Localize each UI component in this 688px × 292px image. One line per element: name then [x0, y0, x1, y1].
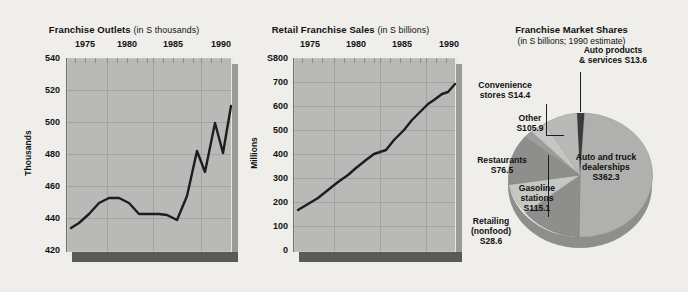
pie-label-auto-truck-l2: dealerships	[582, 162, 630, 172]
pie-label-other-l1: Other	[519, 113, 542, 123]
chart-retail-franchise-sales: Retail Franchise Sales (in S billions) 1…	[238, 0, 463, 292]
ytick-sales-800: S800	[250, 53, 288, 63]
pie-label-auto-products: Auto products & services S13.6	[553, 45, 673, 65]
pie-graphic	[455, 0, 688, 292]
chart-title-sales-sub: (in S billions)	[377, 25, 429, 35]
xaxis-labels-sales: 1975 1980 1985 1990	[238, 39, 463, 51]
plot-base-outlets	[72, 252, 238, 262]
chart-title-sales: Retail Franchise Sales (in S billions)	[238, 24, 463, 35]
leader-convenience-horizontal	[546, 135, 564, 136]
pie-label-convenience-l1: Convenience	[478, 80, 532, 90]
pie-label-convenience: Convenience stores S14.4	[457, 80, 553, 100]
xtick-outlets-2: 1985	[163, 39, 183, 49]
pie-label-restaurants-l1: Restaurants	[477, 155, 527, 165]
pie-label-restaurants: Restaurants S76.5	[465, 155, 539, 175]
pie-label-auto-truck: Auto and truck dealerships S362.3	[563, 152, 649, 183]
pie-label-retailing-l1: Retailing	[473, 216, 509, 226]
pie-label-auto-truck-value: S362.3	[592, 172, 619, 182]
chart-title-sales-main: Retail Franchise Sales	[272, 24, 375, 35]
ytick-outlets-480: 480	[32, 149, 60, 159]
chart-title-outlets: Franchise Outlets (in S thousands)	[0, 24, 248, 35]
ytick-outlets-500: 500	[32, 117, 60, 127]
pie-label-restaurants-value: S76.5	[491, 165, 513, 175]
chart-title-outlets-main: Franchise Outlets	[49, 24, 131, 35]
ytick-sales-100: 100	[250, 221, 288, 231]
pie-label-gasoline-l1: Gasoline	[519, 183, 555, 193]
ytick-outlets-520: 520	[32, 85, 60, 95]
ytick-sales-600: 600	[250, 101, 288, 111]
pie-label-auto-products-l2: & services S13.6	[579, 55, 647, 65]
plot-area-sales	[293, 58, 457, 252]
pie-label-retailing: Retailing (nonfood) S28.6	[451, 216, 531, 247]
ytick-outlets-420: 420	[32, 245, 60, 255]
ytick-outlets-460: 460	[32, 181, 60, 191]
pie-label-auto-products-l1: Auto products	[584, 45, 643, 55]
infographic-canvas: Franchise Outlets (in S thousands) 1975 …	[0, 0, 688, 292]
xtick-sales-2: 1985	[392, 39, 412, 49]
plot-base-sales	[299, 252, 462, 262]
chart-title-outlets-sub: (in S thousands)	[134, 25, 200, 35]
xtick-outlets-1: 1980	[117, 39, 137, 49]
ytick-sales-200: 200	[250, 197, 288, 207]
ytick-outlets-440: 440	[32, 213, 60, 223]
line-series-outlets	[67, 58, 233, 252]
pie-label-other: Other S105.9	[501, 113, 559, 133]
yaxis-title-outlets: Thousands	[23, 123, 33, 183]
plot-area-outlets	[66, 58, 233, 252]
xtick-sales-1: 1980	[346, 39, 366, 49]
xtick-sales-0: 1975	[300, 39, 320, 49]
ytick-sales-0: 0	[250, 245, 288, 255]
pie-label-retailing-l2: (nonfood)	[471, 226, 511, 236]
pie-label-gasoline-l2: stations	[521, 193, 554, 203]
line-series-sales	[294, 58, 457, 252]
ytick-sales-700: 700	[250, 77, 288, 87]
pie-label-gasoline: Gasoline stations S115.1	[507, 183, 567, 214]
leader-auto-products-vertical	[580, 72, 581, 112]
pie-label-gasoline-value: S115.1	[524, 203, 551, 213]
pie-label-other-value: S105.9	[516, 123, 543, 133]
pie-label-retailing-value: S28.6	[480, 236, 502, 246]
chart-franchise-market-shares: Franchise Market Shares (in S billions; …	[455, 0, 688, 292]
yaxis-title-sales: Millions	[249, 123, 259, 183]
pie-label-convenience-l2: stores S14.4	[480, 90, 531, 100]
pie-chart-area: Auto products & services S13.6 Convenien…	[455, 0, 688, 292]
chart-franchise-outlets: Franchise Outlets (in S thousands) 1975 …	[0, 0, 248, 292]
xtick-outlets-0: 1975	[75, 39, 95, 49]
ytick-outlets-540: 540	[32, 53, 60, 63]
pie-label-auto-truck-l1: Auto and truck	[576, 152, 637, 162]
xtick-outlets-3: 1990	[211, 39, 231, 49]
xaxis-labels-outlets: 1975 1980 1985 1990	[0, 39, 248, 51]
